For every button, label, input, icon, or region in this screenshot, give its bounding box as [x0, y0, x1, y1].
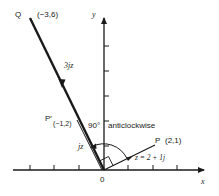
y-axis-ticks: [104, 46, 109, 146]
vector-z-label: z = 2 + 1j: [135, 154, 165, 162]
point-q-coords: (−3,6): [37, 11, 58, 19]
point-p-prime-coords: (−1,2): [53, 120, 71, 127]
y-axis-label: y: [92, 11, 96, 19]
vector-jz-label: jz: [78, 143, 83, 151]
point-p-label: P: [155, 137, 160, 145]
point-q-label: Q: [15, 11, 21, 19]
x-axis-label: x: [201, 178, 205, 186]
rotation-direction-label: anticlockwise: [108, 122, 155, 130]
rotation-angle-label: 90°: [88, 122, 100, 130]
y-axis: [104, 18, 109, 170]
origin-label: 0: [100, 176, 104, 184]
point-p-coords: (2,1): [165, 137, 181, 145]
point-p-prime-label: P′: [45, 115, 52, 123]
vector-3jz-label: 3jz: [64, 62, 73, 70]
argand-diagram: [0, 0, 219, 196]
vector-z-arrow-icon: [126, 156, 133, 161]
